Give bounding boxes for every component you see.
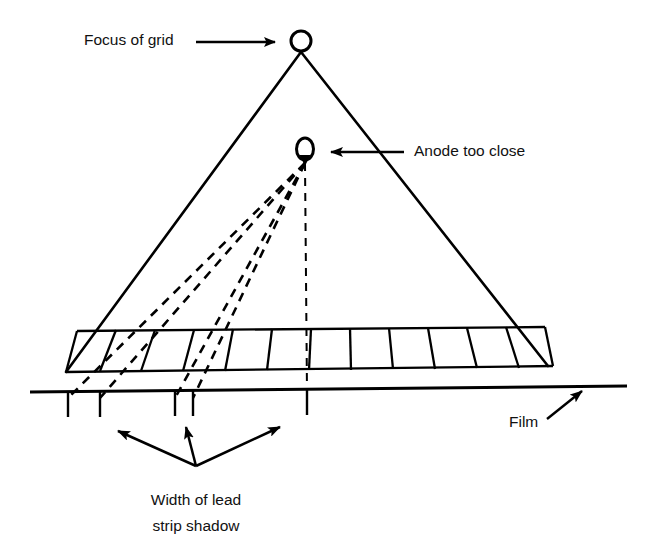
width-of-lead-label-line2: strip shadow — [152, 517, 240, 534]
lead-strip — [350, 328, 351, 370]
grid-focus-point-icon — [291, 31, 311, 51]
film-label: Film — [509, 413, 538, 430]
anode-too-close-label: Anode too close — [414, 142, 525, 159]
focus-of-grid-label: Focus of grid — [84, 31, 174, 48]
width-of-lead-label-line1: Width of lead — [151, 491, 241, 508]
grid-focus-diagram: Focus of grid Anode too close Film Width… — [0, 0, 653, 552]
